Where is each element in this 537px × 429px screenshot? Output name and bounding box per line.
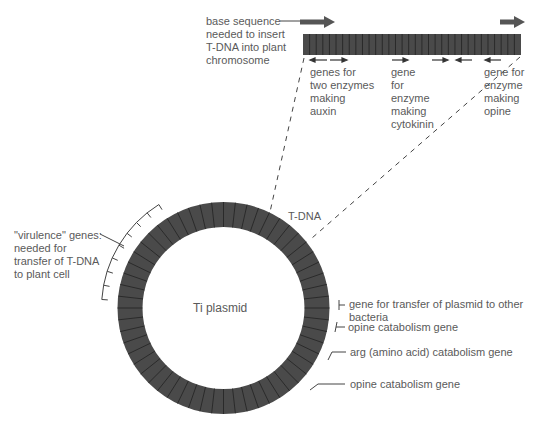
label-line: opine	[484, 105, 524, 118]
label-line: making	[310, 92, 374, 105]
label-line: cytokinin	[391, 118, 434, 131]
label-line: opine catabolism gene	[348, 321, 458, 334]
arg-catabolism-gene-label: arg (amino acid) catabolism gene	[350, 346, 513, 359]
auxin-genes-label: genes for two enzymes making auxin	[310, 66, 374, 118]
opine-gene-label: gene for enzyme making opine	[484, 66, 524, 118]
label-line: needed to insert	[206, 28, 286, 41]
cytokinin-gene-label: gene for enzyme making cytokinin	[391, 66, 434, 131]
label-line: making	[484, 92, 524, 105]
label-line: for	[391, 79, 434, 92]
label-line: to plant cell	[14, 268, 102, 281]
opine-catabolism-gene-label-1: opine catabolism gene	[348, 321, 458, 334]
dashed-line-left	[270, 58, 304, 212]
label-line: gene for	[484, 66, 524, 79]
label-line: opine catabolism gene	[350, 378, 460, 391]
label-line: T-DNA into plant	[206, 41, 286, 54]
plasmid-label: Ti plasmid	[193, 302, 247, 315]
label-line: enzyme	[484, 79, 524, 92]
label-line: "virulence" genes:	[14, 229, 102, 242]
label-line: two enzymes	[310, 79, 374, 92]
gene-direction-arrows	[310, 58, 501, 62]
label-line: enzyme	[391, 92, 434, 105]
label-line: gene	[391, 66, 434, 79]
label-line: chromosome	[206, 54, 286, 67]
label-line: base sequence	[206, 15, 286, 28]
label-line: arg (amino acid) catabolism gene	[350, 346, 513, 359]
virulence-genes-label: "virulence" genes: needed for transfer o…	[14, 229, 102, 281]
tdna-bar	[303, 34, 521, 55]
base-sequence-label: base sequence needed to insert T-DNA int…	[206, 15, 286, 67]
label-line: making	[391, 105, 434, 118]
border-arrow-left-icon	[300, 16, 335, 28]
label-line: needed for	[14, 242, 102, 255]
opine-catabolism-gene-label-2: opine catabolism gene	[350, 378, 460, 391]
tdna-label: T-DNA	[288, 210, 321, 223]
label-line: genes for	[310, 66, 374, 79]
label-line: gene for transfer of plasmid to other	[349, 298, 523, 311]
label-line: transfer of T-DNA	[14, 255, 102, 268]
label-line: auxin	[310, 105, 374, 118]
border-arrow-right-icon	[500, 16, 525, 28]
